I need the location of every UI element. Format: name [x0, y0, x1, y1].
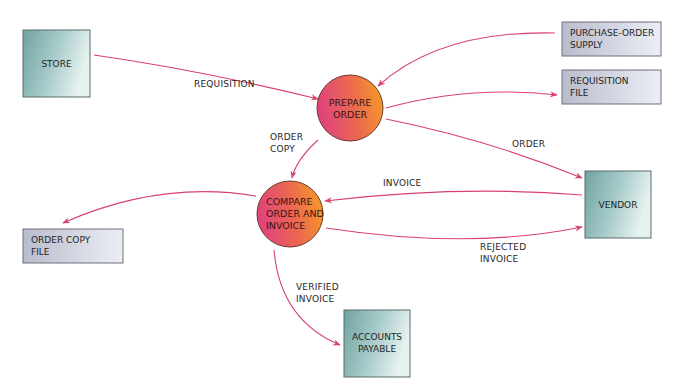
flow-order[interactable]	[386, 119, 582, 178]
flow-label-verified-invoice-2: INVOICE	[296, 294, 335, 304]
process-compare-label-1: COMPARE	[266, 196, 313, 207]
store-order-copy-file[interactable]: ORDER COPY FILE	[23, 229, 123, 263]
entity-store-label: STORE	[41, 59, 72, 69]
store-requisition-file-label-2: FILE	[570, 88, 589, 98]
process-compare-label-3: INVOICE	[266, 220, 305, 231]
process-prepare-order-label-1: PREPARE	[329, 97, 372, 108]
process-prepare-order[interactable]: PREPARE ORDER	[317, 75, 383, 141]
flow-label-order: ORDER	[512, 139, 545, 149]
process-compare-label-2: ORDER AND	[266, 208, 324, 219]
store-purchase-order-supply-label-1: PURCHASE-ORDER	[570, 28, 654, 38]
flow-label-order-copy-1: ORDER	[270, 132, 303, 142]
flow-label-order-copy-2: COPY	[270, 144, 295, 154]
flow-to-order-copy-file[interactable]	[63, 192, 256, 223]
flow-to-requisition-file[interactable]	[386, 92, 557, 108]
entity-vendor[interactable]: VENDOR	[585, 171, 651, 238]
store-requisition-file[interactable]: REQUISITION FILE	[562, 70, 661, 104]
flow-invoice[interactable]	[325, 191, 582, 201]
store-purchase-order-supply[interactable]: PURCHASE-ORDER SUPPLY	[562, 22, 661, 56]
flow-requisition[interactable]	[94, 55, 318, 99]
entity-accounts-payable-label-1: ACCOUNTS	[352, 332, 402, 342]
process-compare-order-invoice[interactable]: COMPARE ORDER AND INVOICE	[257, 181, 324, 247]
entity-store[interactable]: STORE	[23, 30, 90, 97]
flow-label-rejected-invoice-2: INVOICE	[480, 254, 519, 264]
store-requisition-file-label-1: REQUISITION	[570, 76, 629, 86]
entity-accounts-payable[interactable]: ACCOUNTS PAYABLE	[344, 310, 410, 377]
flow-purchase-order-supply[interactable]	[378, 33, 555, 86]
data-flow-diagram: REQUISITION ORDER ORDER COPY INVOICE REJ…	[0, 0, 677, 391]
flow-label-requisition: REQUISITION	[194, 79, 255, 89]
store-purchase-order-supply-label-2: SUPPLY	[570, 40, 603, 50]
flow-rejected-invoice[interactable]	[326, 227, 582, 239]
entity-vendor-label: VENDOR	[599, 200, 638, 210]
store-order-copy-file-label-2: FILE	[31, 247, 50, 257]
store-order-copy-file-label-1: ORDER COPY	[31, 235, 91, 245]
flow-label-invoice: INVOICE	[383, 178, 422, 188]
flow-label-rejected-invoice-1: REJECTED	[480, 242, 526, 252]
flow-label-verified-invoice-1: VERIFIED	[296, 282, 339, 292]
flow-order-copy[interactable]	[292, 140, 318, 178]
process-prepare-order-label-2: ORDER	[333, 109, 367, 120]
entity-accounts-payable-label-2: PAYABLE	[358, 344, 396, 354]
